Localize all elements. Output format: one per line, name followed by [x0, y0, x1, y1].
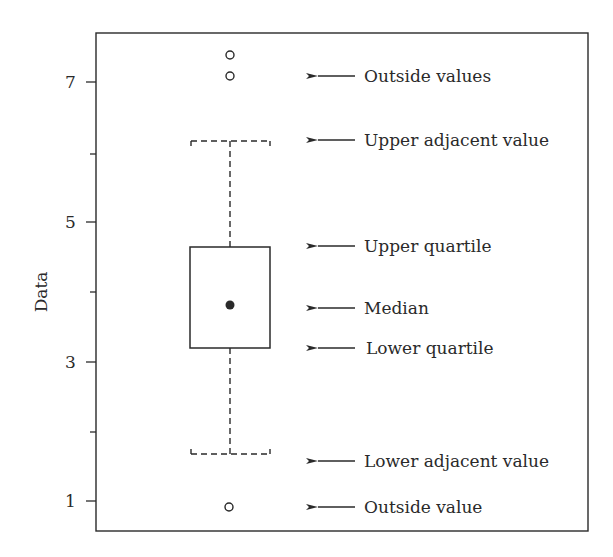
- label-median: Median: [364, 298, 429, 318]
- median-point: [226, 301, 235, 310]
- label-lower-adjacent-value: Lower adjacent value: [364, 451, 549, 471]
- label-upper-adjacent-value: Upper adjacent value: [364, 130, 549, 150]
- upper-whisker: [191, 141, 270, 247]
- box-plot-diagram: 7 5 3 1 Data Outside values Upper adjace…: [0, 0, 613, 557]
- y-axis-label: Data: [31, 272, 51, 313]
- label-lower-quartile: Lower quartile: [366, 338, 494, 358]
- y-tick-label-7: 7: [65, 72, 76, 92]
- label-outside-values: Outside values: [364, 66, 491, 86]
- label-upper-quartile: Upper quartile: [364, 236, 492, 256]
- upper-outlier-point: [226, 51, 234, 59]
- lower-outlier-point: [225, 503, 233, 511]
- label-outside-value: Outside value: [364, 497, 482, 517]
- interquartile-box: [190, 247, 270, 348]
- y-axis: [86, 82, 96, 501]
- y-tick-label-5: 5: [65, 212, 76, 232]
- upper-outlier-point: [226, 72, 234, 80]
- y-tick-label-1: 1: [65, 491, 76, 511]
- annotation-arrows: [318, 76, 355, 507]
- lower-whisker: [191, 348, 270, 454]
- y-tick-label-3: 3: [65, 352, 76, 372]
